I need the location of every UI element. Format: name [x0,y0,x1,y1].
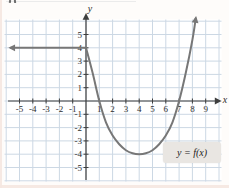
svg-text:-2: -2 [56,104,64,114]
svg-text:2: 2 [78,69,83,79]
graph-figure: -5-4-3-2-112345678954321-1-2-3-4-5 x y y… [0,0,229,188]
svg-text:2: 2 [110,104,115,114]
function-label: y = f(x) [163,142,221,163]
svg-text:-3: -3 [75,136,83,146]
svg-text:5: 5 [150,104,155,114]
svg-text:-1: -1 [75,109,83,119]
svg-text:-4: -4 [75,149,83,159]
svg-text:-4: -4 [29,104,37,114]
svg-text:3: 3 [124,104,129,114]
svg-text:-3: -3 [42,104,50,114]
svg-text:-5: -5 [75,163,83,173]
svg-text:8: 8 [190,104,195,114]
svg-text:5: 5 [78,30,83,40]
page-edge-tint-left [0,0,2,188]
svg-text:-5: -5 [16,104,24,114]
svg-text:1: 1 [78,83,83,93]
page-edge-tint-bottom [0,185,229,188]
svg-text:9: 9 [203,104,208,114]
svg-text:3: 3 [78,56,83,66]
svg-text:-2: -2 [75,123,83,133]
svg-text:6: 6 [164,104,169,114]
svg-text:4: 4 [137,104,142,114]
function-label-text: y = f(x) [177,147,207,158]
